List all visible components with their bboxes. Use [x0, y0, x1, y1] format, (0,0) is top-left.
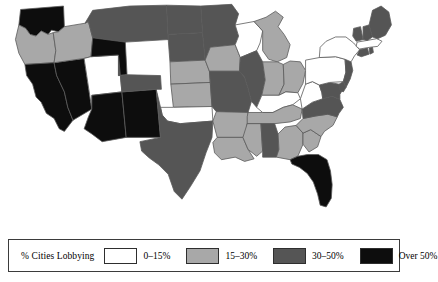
state-ri: Rhode Island — 30–50%: [369, 47, 373, 54]
legend-label-15-30: 15–30%: [225, 251, 257, 261]
us-map-svg: Washington — Over 50%Oregon — 15–30%Cali…: [0, 0, 412, 234]
state-ne: Nebraska — 15–30%: [170, 60, 210, 84]
legend-entry-1: 15–30%: [186, 248, 271, 264]
state-al: Alabama — 30–50%: [261, 124, 279, 157]
legend-label-over-50: Over 50%: [399, 251, 438, 261]
legend-swatch-15-30: [186, 248, 219, 264]
legend-swatch-0-15: [104, 248, 137, 264]
state-fl: Florida — Over 50%: [290, 155, 332, 207]
map-legend: % Cities Lobbying 0–15% 15–30% 30–50% Ov…: [8, 239, 400, 272]
legend-swatch-over-50: [360, 248, 393, 264]
us-map: Washington — Over 50%Oregon — 15–30%Cali…: [0, 0, 412, 234]
state-vt: Vermont — 30–50%: [353, 27, 363, 42]
legend-label-0-15: 0–15%: [143, 251, 170, 261]
state-nm: New Mexico — Over 50%: [122, 89, 161, 137]
legend-swatch-30-50: [273, 248, 306, 264]
state-ia: Iowa — 15–30%: [205, 45, 240, 72]
state-pa: Pennsylvania — 0–15%: [306, 57, 346, 85]
state-mt: Montana — 30–50%: [85, 5, 168, 42]
state-ga: Georgia — 15–30%: [276, 125, 303, 159]
state-in: Indiana — 15–30%: [262, 62, 284, 95]
state-sd: South Dakota — 30–50%: [168, 33, 205, 62]
legend-entry-0: 0–15%: [104, 248, 184, 264]
states-layer: Washington — Over 50%Oregon — 15–30%Cali…: [15, 4, 391, 207]
legend-title: % Cities Lobbying: [17, 251, 94, 261]
legend-label-30-50: 30–50%: [312, 251, 344, 261]
state-me: Maine — 30–50%: [369, 6, 391, 39]
legend-entry-3: Over 50%: [360, 248, 438, 264]
state-ar: Arkansas — 15–30%: [213, 112, 248, 138]
legend-entry-2: 30–50%: [273, 248, 358, 264]
state-ks: Kansas — 15–30%: [171, 82, 212, 107]
